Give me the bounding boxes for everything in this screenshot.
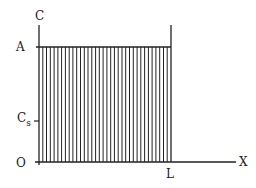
l-label: L — [166, 167, 174, 181]
diagram-canvas: C A Cs O L X — [0, 0, 256, 188]
cs-label-sub: s — [26, 118, 31, 128]
a-label: A — [15, 40, 25, 54]
c-axis-label: C — [35, 9, 44, 23]
hatched-region — [43, 47, 167, 162]
cs-label-main: C — [17, 111, 26, 125]
x-axis-label: X — [239, 155, 248, 169]
cs-label: Cs — [17, 111, 31, 128]
origin-label: O — [16, 156, 26, 170]
